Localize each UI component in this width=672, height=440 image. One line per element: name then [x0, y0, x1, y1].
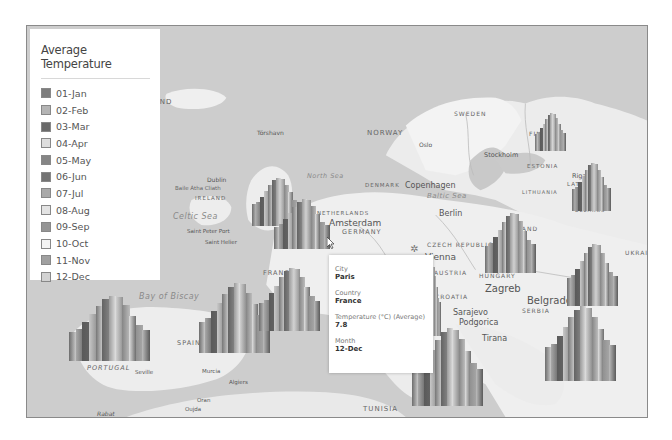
- legend-item[interactable]: 06-Jun: [41, 168, 150, 185]
- legend-item[interactable]: 07-Jul: [41, 185, 150, 202]
- city-column-cluster[interactable]: [69, 296, 149, 361]
- legend-label: 08-Aug: [56, 205, 90, 216]
- legend-swatch: [41, 222, 51, 232]
- map-label-zagreb: Zagreb: [485, 283, 521, 294]
- map-label-tirana: Tirana: [482, 334, 507, 343]
- legend-swatch: [41, 172, 51, 182]
- map-label-stockholm: Stockholm: [484, 151, 518, 159]
- map-label-czech: CZECH REPUBLIC: [427, 241, 493, 248]
- map-label-denmark: DENMARK: [365, 182, 400, 188]
- month-column[interactable]: [142, 330, 149, 361]
- legend-label: 05-May: [56, 155, 91, 166]
- map-label-oujda: Oujda: [185, 406, 201, 412]
- city-column-cluster[interactable]: [535, 113, 565, 151]
- tooltip-city-label: City: [335, 265, 427, 273]
- map-label-dublin: Dublin: [207, 176, 226, 183]
- legend-label: 12-Dec: [56, 271, 90, 282]
- month-column[interactable]: [613, 276, 618, 306]
- legend-label: 03-Mar: [56, 121, 89, 132]
- month-column[interactable]: [476, 369, 482, 406]
- legend-swatch: [41, 88, 51, 98]
- legend-label: 07-Jul: [56, 188, 84, 199]
- map-label-amsterdam: Amsterdam: [329, 218, 381, 228]
- month-column[interactable]: [531, 244, 536, 273]
- tooltip-country-value: France: [335, 297, 427, 305]
- map-label-celtic-sea: Celtic Sea: [173, 212, 218, 221]
- map-label-algiers: Algiers: [229, 379, 248, 385]
- legend-swatch: [41, 255, 51, 265]
- map-label-rabat: Rabat: [97, 410, 115, 417]
- legend-label: 09-Sep: [56, 221, 89, 232]
- map-visual[interactable]: LAND Tórshavn NORWAY Oslo SWEDEN Stockho…: [26, 25, 648, 418]
- legend-swatch: [41, 272, 51, 282]
- map-label-oran: Oran: [197, 397, 210, 403]
- legend-swatch: [41, 205, 51, 215]
- map-label-estonia: ESTONIA: [527, 163, 558, 169]
- legend-swatch: [41, 188, 51, 198]
- month-column[interactable]: [314, 301, 320, 331]
- legend-item[interactable]: 03-Mar: [41, 118, 150, 135]
- legend-swatch: [41, 122, 51, 132]
- legend-item[interactable]: 04-Apr: [41, 135, 150, 152]
- month-column[interactable]: [607, 188, 611, 211]
- legend-swatch: [41, 105, 51, 115]
- month-column[interactable]: [439, 302, 441, 336]
- legend-label: 11-Nov: [56, 255, 90, 266]
- legend: Average Temperature 01-Jan02-Feb03-Mar04…: [30, 29, 160, 280]
- legend-swatch: [41, 138, 51, 148]
- map-label-saint-helier: Saint Helier: [205, 239, 237, 245]
- tooltip-temp-label: Temperature (°C) (Average): [335, 313, 427, 321]
- map-label-lithuania: LITHUANIA: [522, 189, 558, 195]
- map-label-belgrade: Belgrade: [527, 295, 572, 306]
- tooltip-month-label: Month: [335, 337, 427, 345]
- city-column-cluster[interactable]: [545, 306, 615, 381]
- tooltip-month-value: 12-Dec: [335, 345, 427, 353]
- tooltip: City Paris Country France Temperature (°…: [329, 255, 433, 373]
- legend-item[interactable]: 08-Aug: [41, 202, 150, 219]
- legend-item[interactable]: 01-Jan: [41, 85, 150, 102]
- map-label-baltic-sea: Baltic Sea: [427, 192, 467, 200]
- city-column-cluster[interactable]: [572, 163, 610, 211]
- tooltip-temp-value: 7.8: [335, 321, 427, 329]
- map-label-oslo: Oslo: [419, 141, 432, 148]
- map-label-murcia: Murcia: [202, 368, 220, 374]
- map-label-sweden: SWEDEN: [454, 110, 486, 117]
- map-label-tunisia: TUNISIA: [363, 405, 398, 413]
- map-label-portugal: PORTUGAL: [87, 364, 130, 372]
- city-column-cluster[interactable]: [259, 268, 319, 331]
- map-label-podgorica: Podgorica: [459, 318, 498, 327]
- map-label-sarajevo: Sarajevo: [453, 308, 488, 317]
- legend-item[interactable]: 09-Sep: [41, 219, 150, 236]
- legend-item[interactable]: 05-May: [41, 152, 150, 169]
- legend-title: Average Temperature: [41, 43, 150, 79]
- map-label-germany: GERMANY: [342, 228, 382, 236]
- legend-swatch: [41, 155, 51, 165]
- legend-label: 01-Jan: [56, 88, 87, 99]
- legend-item[interactable]: 02-Feb: [41, 102, 150, 119]
- map-label-seville: Seville: [135, 369, 153, 375]
- map-label-norway: NORWAY: [367, 129, 403, 137]
- legend-item[interactable]: 12-Dec: [41, 269, 150, 286]
- map-label-hungary: HUNGARY: [479, 272, 516, 279]
- city-column-cluster[interactable]: [485, 213, 535, 273]
- legend-label: 10-Oct: [56, 238, 88, 249]
- legend-item[interactable]: 10-Oct: [41, 235, 150, 252]
- legend-label: 02-Feb: [56, 105, 88, 116]
- map-label-ireland: IRELAND: [195, 195, 226, 201]
- legend-label: 04-Apr: [56, 138, 88, 149]
- tooltip-city-value: Paris: [335, 273, 427, 281]
- city-column-cluster[interactable]: [567, 244, 617, 306]
- mouse-cursor-icon: [327, 237, 335, 249]
- map-label-ukraine: UKRAINE: [625, 249, 648, 256]
- legend-items: 01-Jan02-Feb03-Mar04-Apr05-May06-Jun07-J…: [41, 85, 150, 285]
- map-label-berlin: Berlin: [439, 209, 462, 218]
- legend-item[interactable]: 11-Nov: [41, 252, 150, 269]
- month-column[interactable]: [609, 345, 615, 381]
- month-column[interactable]: [563, 133, 566, 151]
- legend-swatch: [41, 239, 51, 249]
- city-column-cluster[interactable]: [274, 199, 329, 249]
- map-label-torshavn: Tórshavn: [257, 129, 284, 136]
- map-label-spain: SPAIN: [177, 339, 201, 347]
- map-label-copenhagen: Copenhagen: [405, 181, 456, 190]
- capital-marker-icon: ✲: [410, 243, 418, 254]
